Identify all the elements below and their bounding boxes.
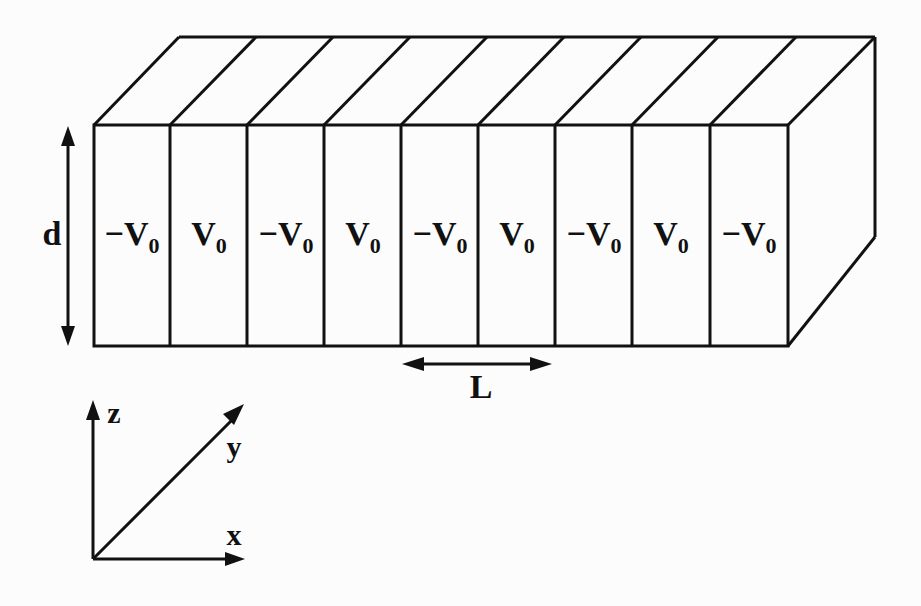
strip-label-2: V0 (191, 215, 227, 258)
y-axis-label: y (227, 430, 242, 463)
strip-label-8: V0 (653, 215, 689, 258)
thickness-dimension: d (43, 126, 75, 346)
slab-diagram: −V0 V0 −V0 V0 −V0 V0 −V0 V0 −V0 d L z y … (0, 0, 921, 606)
strip-label-4: V0 (345, 215, 381, 258)
strip-label-5: −V0 (413, 215, 468, 258)
strip-labels: −V0 V0 −V0 V0 −V0 V0 −V0 V0 −V0 (105, 215, 777, 258)
y-axis-arrow-icon (93, 418, 234, 559)
period-dimension: L (402, 357, 552, 405)
coordinate-axes (93, 414, 234, 559)
thickness-label: d (43, 215, 62, 252)
x-axis-label: x (227, 518, 242, 551)
strip-label-9: −V0 (722, 215, 777, 258)
strip-label-6: V0 (499, 215, 535, 258)
period-label: L (470, 368, 493, 405)
strip-label-1: −V0 (105, 215, 160, 258)
slab-outline (94, 37, 875, 346)
strip-label-7: −V0 (567, 215, 622, 258)
z-axis-label: z (107, 396, 120, 429)
strip-label-3: −V0 (259, 215, 314, 258)
